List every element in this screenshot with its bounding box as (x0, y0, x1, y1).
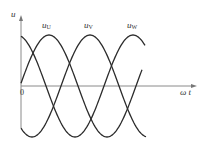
axes (19, 15, 197, 128)
three-phase-waveform-diagram (0, 0, 208, 152)
x-axis-label: ω t (180, 88, 191, 97)
series-label-uV: uV (84, 21, 93, 30)
series-label-uV-sub: V (89, 24, 93, 30)
series-label-uW-sub: W (132, 24, 138, 30)
series-label-uU-sub: U (47, 24, 51, 30)
origin-label: 0 (20, 89, 24, 97)
series-label-uU: uU (42, 21, 51, 30)
x-axis-arrowhead-icon (191, 84, 197, 88)
series-label-uW: uW (127, 21, 137, 30)
y-axis-label: u (11, 10, 16, 19)
y-axis-arrowhead-icon (19, 15, 23, 21)
